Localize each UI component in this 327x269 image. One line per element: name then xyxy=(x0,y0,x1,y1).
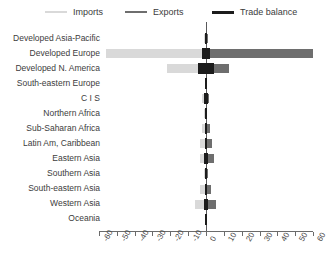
category-label: Sub-Saharan Africa xyxy=(0,124,100,133)
x-axis-tick xyxy=(313,232,314,236)
category-label: Northern Africa xyxy=(0,109,100,118)
category-label: Developed Europe xyxy=(0,49,100,58)
category-label: C I S xyxy=(0,94,100,103)
bar-trade-balance xyxy=(205,168,208,179)
category-label: Developed Asia-Pacific xyxy=(0,34,100,43)
x-axis-tick xyxy=(117,232,118,236)
x-axis-tick xyxy=(260,232,261,236)
bar-trade-balance xyxy=(205,214,207,225)
x-axis-tick xyxy=(295,232,296,236)
bar-trade-balance xyxy=(204,153,209,164)
category-label: Latin Am, Caribbean xyxy=(0,139,100,148)
bar-trade-balance xyxy=(204,93,208,104)
category-label: Eastern Asia xyxy=(0,154,100,163)
bar-trade-balance xyxy=(205,138,208,149)
category-label: Oceania xyxy=(0,214,100,223)
bar-trade-balance xyxy=(205,184,207,195)
bar-trade-balance xyxy=(205,123,207,134)
x-axis-tick xyxy=(206,232,207,236)
bar-trade-balance xyxy=(205,78,207,89)
x-axis-tick xyxy=(277,232,278,236)
bar-trade-balance xyxy=(198,63,214,74)
bar-imports xyxy=(106,49,206,58)
x-axis-tick xyxy=(188,232,189,236)
category-label: Developed N. America xyxy=(0,64,100,73)
bar-trade-balance xyxy=(205,33,207,44)
bar-exports xyxy=(206,49,313,58)
bar-trade-balance xyxy=(204,199,208,210)
x-axis-tick xyxy=(242,232,243,236)
category-label: South-eastern Europe xyxy=(0,79,100,88)
bar-trade-balance xyxy=(205,108,207,119)
category-label: Western Asia xyxy=(0,199,100,208)
x-axis-tick xyxy=(170,232,171,236)
x-axis-tick xyxy=(99,232,100,236)
category-label: Southern Asia xyxy=(0,169,100,178)
category-label: South-eastern Asia xyxy=(0,184,100,193)
x-axis-tick xyxy=(152,232,153,236)
bar-trade-balance xyxy=(202,48,209,59)
x-axis-tick xyxy=(224,232,225,236)
x-axis-tick xyxy=(135,232,136,236)
